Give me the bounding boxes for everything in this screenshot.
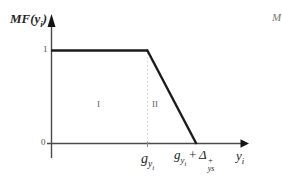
gd-plus-operator: + — [188, 147, 197, 162]
delta-scripts: +ys — [208, 157, 215, 174]
x-tick-g-label: gyi — [141, 152, 154, 168]
region-label-I: I — [97, 100, 100, 109]
y-tick-0: 0 — [41, 138, 46, 147]
delta-sub: ys — [208, 165, 215, 173]
y-axis-title: MF(yi) — [10, 12, 47, 25]
x-tick-g-delta-label: gyi+Δ+ys — [174, 148, 214, 174]
g-base: g — [141, 151, 148, 166]
x-axis-title-sub: i — [242, 156, 244, 166]
membership-function-figure: MF(yi) M 1 0 I II gyi gyi+Δ+ys yi — [0, 0, 282, 189]
gd-subsub: i — [184, 159, 186, 166]
y-axis-title-base: MF(y — [10, 11, 40, 26]
y-axis-arrow-icon — [48, 14, 56, 27]
x-axis-arrow-icon — [241, 139, 250, 147]
gd-delta: Δ — [199, 147, 207, 162]
x-axis-title: yi — [236, 149, 244, 162]
membership-slope-segment — [147, 50, 197, 144]
y-axis-title-close: ) — [43, 11, 47, 26]
y-tick-1: 1 — [43, 45, 48, 54]
region-label-II: II — [152, 100, 158, 109]
g-subsub: i — [152, 164, 154, 172]
corner-cropped-text: M — [272, 12, 281, 23]
